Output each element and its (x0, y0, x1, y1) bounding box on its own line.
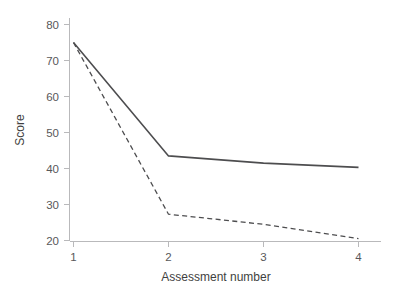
y-tick-label: 60 (46, 91, 59, 103)
chart-container: 80 70 60 50 40 30 20 1 2 3 4 Assessment … (0, 0, 393, 293)
y-tick-label: 50 (46, 127, 59, 139)
x-tick-label: 3 (260, 251, 266, 263)
y-tick-label: 40 (46, 163, 59, 175)
chart-background (0, 0, 393, 293)
x-tick-label: 1 (70, 251, 76, 263)
y-axis-title: Score (13, 114, 27, 146)
x-tick-label: 2 (165, 251, 171, 263)
x-axis-title: Assessment number (161, 270, 270, 284)
y-tick-label: 70 (46, 55, 59, 67)
line-chart: 80 70 60 50 40 30 20 1 2 3 4 Assessment … (0, 0, 393, 293)
y-tick-label: 20 (46, 235, 59, 247)
y-tick-label: 30 (46, 199, 59, 211)
y-tick-label: 80 (46, 19, 59, 31)
x-tick-label: 4 (355, 251, 362, 263)
